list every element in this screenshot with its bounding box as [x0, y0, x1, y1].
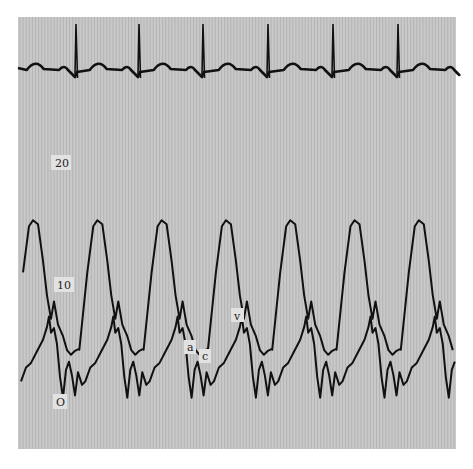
y-tick-label-10: 10 — [57, 279, 71, 292]
annotation-c-label: c — [202, 350, 208, 363]
annotation-a: a — [184, 340, 196, 354]
y-tick-0: O — [53, 394, 67, 409]
y-tick-10: 10 — [54, 277, 74, 292]
y-tick-label-0: O — [56, 396, 65, 409]
annotation-c: c — [199, 349, 211, 363]
annotation-v: v — [231, 308, 244, 323]
annotation-a-label: a — [187, 341, 194, 354]
y-tick-label-20: 20 — [55, 157, 69, 170]
y-tick-20: 20 — [51, 155, 71, 170]
annotation-v-label: v — [233, 310, 241, 323]
pressure-recording-chart: 20 10 O a c v — [0, 0, 473, 469]
chart-grid — [20, 17, 454, 449]
